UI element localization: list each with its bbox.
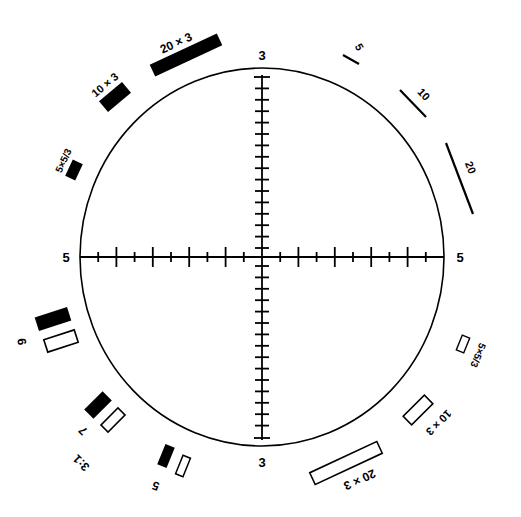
pair-5: 5 — [150, 444, 191, 494]
pair-9-label: 9 — [15, 337, 30, 346]
line-10-label: 10 — [415, 86, 432, 103]
axis-label-left: 5 — [62, 250, 69, 265]
pair-5-black — [157, 444, 175, 468]
bar-10x3-white-label: 10 × 3 — [424, 408, 454, 438]
axis-label-bottom: 3 — [258, 455, 265, 470]
line-5: 5 — [343, 41, 366, 64]
line-5-label: 5 — [353, 41, 366, 52]
ratio-label-3-1: 3:1 — [70, 452, 92, 474]
pair-9-black — [35, 307, 72, 331]
bar-20x3-white: 20 × 3 — [310, 441, 383, 493]
pair-7-black — [84, 391, 112, 419]
pair-7-white — [101, 408, 125, 432]
bar-10x3-white: 10 × 3 — [403, 395, 454, 438]
pair-5-label: 5 — [150, 478, 161, 494]
line-20-label: 20 — [463, 160, 479, 176]
axis-label-right: 5 — [456, 250, 463, 265]
bar-5x5-3-white-label: 5×5/3 — [468, 342, 488, 370]
pair-5-white — [176, 455, 191, 477]
bar-5x5-3-white: 5×5/3 — [456, 335, 488, 369]
pair-9-white — [44, 330, 78, 352]
reticle-diagram: 3 3 5 5 20 × 3 10 × 3 5×5/3 5 10 20 9 7 … — [0, 0, 521, 517]
bar-5x5-3-black: 5×5/3 — [53, 146, 86, 180]
bar-20x3-black: 20 × 3 — [143, 19, 222, 76]
axis-label-top: 3 — [258, 48, 265, 63]
pair-9: 9 — [15, 307, 79, 352]
pair-7: 7 — [76, 391, 125, 438]
pair-7-label: 7 — [76, 423, 91, 438]
bar-10x3-black: 10 × 3 — [89, 70, 131, 112]
line-10: 10 — [400, 86, 432, 117]
line-20: 20 — [446, 143, 479, 214]
